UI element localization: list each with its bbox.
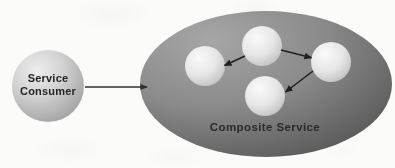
inner-service-right[interactable] <box>311 42 351 82</box>
composite-service-label: Composite Service <box>210 121 320 133</box>
diagram-canvas: Composite Service Service Consumer <box>0 0 395 168</box>
inner-service-left[interactable] <box>185 46 225 86</box>
service-consumer-label-line2: Consumer <box>20 85 77 97</box>
inner-service-top[interactable] <box>242 26 282 66</box>
inner-service-bottom[interactable] <box>245 76 285 116</box>
service-consumer-group[interactable]: Service Consumer <box>12 50 84 122</box>
service-consumer-label-line1: Service <box>28 72 69 84</box>
